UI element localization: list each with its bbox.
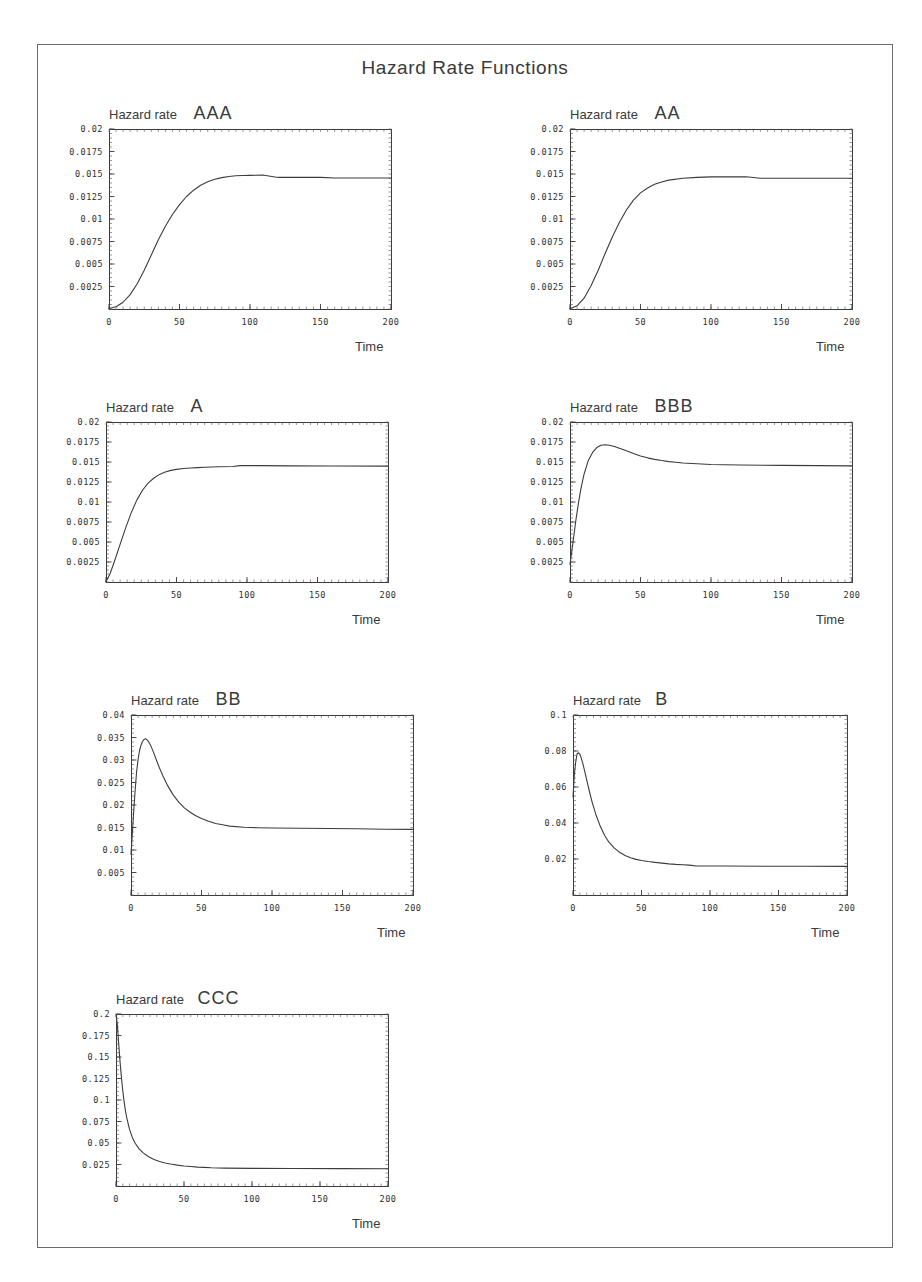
x-tick-label: 100 [239,590,256,600]
panel-ylabel: Hazard rate [116,992,184,1007]
y-tick-label: 0.15 [88,1052,110,1062]
y-tick-label: 0.02 [81,124,103,134]
y-tick-label: 0.0175 [69,147,103,157]
panel-ylabel: Hazard rate [106,400,174,415]
y-tick-label: 0.1 [93,1095,110,1105]
y-tick-label: 0.01 [81,214,103,224]
hazard-curve [573,753,847,867]
y-tick-label: 0.075 [82,1117,110,1127]
hazard-curve [109,175,391,308]
hazard-curve [106,466,388,582]
plot-area: 0.00250.0050.00750.010.01250.0150.01750.… [570,129,854,335]
y-tick-label: 0.01 [542,497,564,507]
y-tick-label: 0.02 [545,854,567,864]
x-tick-label: 200 [839,903,856,913]
x-tick-label: 0 [570,903,576,913]
panel-title: BB [216,689,242,710]
figure-title: Hazard Rate Functions [38,57,892,79]
panel-title: CCC [198,988,240,1009]
y-tick-label: 0.015 [97,823,125,833]
y-tick-label: 0.035 [97,733,125,743]
x-tick-label: 150 [312,317,329,327]
y-tick-label: 0.005 [536,537,564,547]
panel-xlabel: Time [355,339,383,354]
y-tick-label: 0.025 [82,1160,110,1170]
y-tick-label: 0.0025 [530,282,564,292]
x-tick-label: 50 [174,317,185,327]
x-tick-label: 50 [636,903,647,913]
x-tick-label: 0 [567,317,573,327]
x-tick-label: 200 [844,590,861,600]
x-tick-label: 150 [773,590,790,600]
x-tick-label: 50 [178,1194,189,1204]
y-tick-label: 0.0025 [66,557,100,567]
x-tick-label: 0 [113,1194,119,1204]
y-tick-label: 0.015 [72,457,100,467]
y-tick-label: 0.2 [93,1009,110,1019]
x-tick-label: 200 [405,903,422,913]
panel-bb: Hazard rateBBTime0.0050.010.0150.020.025… [131,715,423,955]
y-tick-label: 0.05 [88,1138,110,1148]
x-tick-label: 50 [171,590,182,600]
y-tick-label: 0.0075 [69,237,103,247]
y-tick-label: 0.04 [103,710,125,720]
x-tick-label: 50 [635,317,646,327]
x-tick-label: 0 [567,590,573,600]
panel-aa: Hazard rateAATime0.00250.0050.00750.010.… [570,129,862,369]
panel-xlabel: Time [377,925,405,940]
y-tick-label: 0.0125 [530,192,564,202]
x-tick-label: 150 [312,1194,329,1204]
y-tick-label: 0.02 [103,800,125,810]
y-tick-label: 0.0125 [66,477,100,487]
hazard-curve [116,1014,388,1169]
x-tick-label: 150 [770,903,787,913]
y-tick-label: 0.005 [72,537,100,547]
y-tick-label: 0.0125 [530,477,564,487]
y-tick-label: 0.025 [97,778,125,788]
y-tick-label: 0.0075 [530,237,564,247]
figure-border: Hazard Rate Functions Hazard rateAAATime… [37,44,893,1248]
panel-b: Hazard rateBTime0.020.040.060.080.105010… [573,715,857,955]
y-tick-label: 0.08 [545,746,567,756]
y-tick-label: 0.015 [75,169,103,179]
hazard-curve [131,739,413,855]
y-tick-label: 0.0025 [530,557,564,567]
y-tick-label: 0.0025 [69,282,103,292]
y-tick-label: 0.0175 [66,437,100,447]
hazard-curve [570,177,852,309]
y-tick-label: 0.005 [97,868,125,878]
y-tick-label: 0.02 [78,417,100,427]
y-tick-label: 0.005 [75,259,103,269]
y-tick-label: 0.0075 [66,517,100,527]
y-tick-label: 0.01 [78,497,100,507]
panel-title: BBB [655,396,694,417]
y-tick-label: 0.015 [536,457,564,467]
x-tick-label: 100 [244,1194,261,1204]
x-tick-label: 0 [128,903,134,913]
x-tick-label: 0 [103,590,109,600]
x-tick-label: 200 [844,317,861,327]
y-tick-label: 0.02 [542,417,564,427]
plot-area: 0.00250.0050.00750.010.01250.0150.01750.… [109,129,393,335]
y-tick-label: 0.01 [103,845,125,855]
y-tick-label: 0.0125 [69,192,103,202]
panel-xlabel: Time [352,1216,380,1231]
y-tick-label: 0.175 [82,1031,110,1041]
plot-area: 0.020.040.060.080.1050100150200 [573,715,849,921]
panel-title: AAA [194,103,233,124]
panel-title: AA [655,103,681,124]
plot-area: 0.00250.0050.00750.010.01250.0150.01750.… [106,422,390,608]
panel-title: B [655,689,668,710]
y-tick-label: 0.03 [103,755,125,765]
plot-area: 0.00250.0050.00750.010.01250.0150.01750.… [570,422,854,608]
panel-ylabel: Hazard rate [570,107,638,122]
y-tick-label: 0.005 [536,259,564,269]
panel-ylabel: Hazard rate [573,693,641,708]
panel-xlabel: Time [816,612,844,627]
plot-area: 0.0050.010.0150.020.0250.030.0350.040501… [131,715,415,921]
x-tick-label: 100 [242,317,259,327]
x-tick-label: 100 [702,903,719,913]
panel-xlabel: Time [352,612,380,627]
x-tick-label: 50 [196,903,207,913]
y-tick-label: 0.0075 [530,517,564,527]
